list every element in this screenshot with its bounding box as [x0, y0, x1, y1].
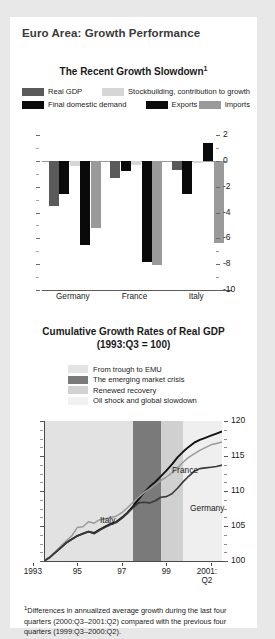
chart1-y-tick	[216, 225, 250, 226]
chart2-y-tick-mark	[224, 482, 227, 483]
chart1-y-tick-mark	[216, 251, 219, 252]
chart1-y-tick: -2	[216, 187, 250, 188]
figure-panel: Euro Area: Growth Performance The Recent…	[10, 17, 257, 628]
chart2-plot-area	[44, 421, 222, 561]
chart2-y-tick-mark-left	[40, 517, 43, 518]
chart2-y-tick-mark-left	[40, 439, 43, 440]
chart2-y-tick-label-105: 105	[231, 520, 245, 530]
chart2-y-tick-mark-left	[40, 482, 43, 483]
chart1-y-tick: -6	[216, 238, 250, 239]
chart1-legend-row-2: Final domestic demand Exports Imports	[22, 98, 250, 111]
chart2-x-tick-label-95: 95	[59, 567, 95, 576]
chart1-y-tick-mark-left	[36, 225, 39, 226]
chart1-y-tick-mark	[216, 264, 220, 265]
legend-item-stockbuilding: Stockbuilding, contribution to growth	[102, 87, 250, 96]
chart2-y-tick-mark	[224, 439, 227, 440]
chart1-x-label-italy: Italy	[165, 292, 227, 301]
chart2-x-tick-mark	[33, 563, 34, 566]
chart2-y-tick-mark-left	[40, 500, 43, 501]
legend-label-renewed-recovery: Renewed recovery	[93, 386, 156, 395]
chart2-y-tick-mark-left	[40, 561, 44, 562]
chart2-x-axis-line	[44, 561, 228, 562]
legend-item-imports: Imports	[199, 100, 250, 109]
chart2-y-tick-mark	[224, 430, 227, 431]
chart2-y-tick-mark	[224, 447, 227, 448]
chart2-y-tick-mark-left	[40, 465, 43, 466]
chart2-y-tick-mark	[224, 535, 227, 536]
chart1-y-tick-label-neg2: -2	[223, 181, 231, 191]
chart2-x-tick-mark	[122, 563, 123, 566]
legend-label-stockbuilding: Stockbuilding, contribution to growth	[128, 87, 250, 96]
page-title: Euro Area: Growth Performance	[22, 27, 200, 39]
legend-swatch-imports	[199, 101, 221, 109]
chart2-x-tick-label-97: 97	[104, 567, 140, 576]
chart2-y-tick-mark	[224, 552, 227, 553]
chart1-legend-row-1: Real GDP Stockbuilding, contribution to …	[22, 85, 250, 98]
chart1-y-tick-mark-left	[36, 187, 40, 188]
chart2-series-label-italy: Italy	[100, 515, 115, 525]
bar-france-stockbuilding-contribution-to-growth	[131, 161, 141, 165]
line-series-france	[44, 432, 222, 562]
chart2-x-tick-mark	[77, 563, 78, 566]
chart1-y-tick-mark	[216, 290, 220, 291]
legend-swatch-exports	[146, 101, 168, 109]
legend-label-final-domestic-demand: Final domestic demand	[48, 100, 127, 109]
chart2-y-tick-mark	[224, 500, 227, 501]
chart1-y-tick-mark	[216, 277, 219, 278]
footnote-text: Differences in annualized average growth…	[24, 606, 226, 635]
legend-swatch-final-domestic-demand	[22, 101, 44, 109]
chart1-y-tick: -10	[216, 290, 250, 291]
chart1-y-tick-mark-left	[36, 213, 40, 214]
chart2-y-tick-mark	[224, 474, 227, 475]
bar-france-exports	[142, 161, 152, 262]
chart2-y-tick-mark	[224, 465, 227, 466]
chart2-x-tick-mark	[166, 563, 167, 566]
legend-item-final-domestic-demand: Final domestic demand	[22, 100, 146, 109]
legend-label-emerging-market-crisis: The emerging market crisis	[93, 375, 185, 384]
chart1-y-tick-label-0: 0	[223, 155, 228, 165]
chart1-y-tick-mark	[216, 161, 220, 162]
chart1-y-tick-mark-left	[36, 264, 40, 265]
chart2-y-tick-mark	[224, 517, 227, 518]
chart1-x-axis	[42, 290, 232, 291]
legend-item-renewed-recovery: Renewed recovery	[68, 385, 197, 396]
chart1-y-tick-label-neg4: -4	[223, 207, 231, 217]
chart1-y-tick-mark	[216, 174, 219, 175]
chart1-plot-area	[42, 135, 227, 290]
chart2-y-tick-mark	[224, 561, 228, 562]
chart2-y-tick-mark-left	[40, 552, 43, 553]
legend-swatch-trough-to-emu	[68, 365, 88, 373]
chart2-y-tick-mark	[224, 456, 228, 457]
chart2-y-tick-mark-left	[40, 526, 44, 527]
chart1-y-tick-mark	[216, 200, 219, 201]
chart2-x-tick-label-2001:: 2001:Q2	[189, 567, 225, 585]
chart2-y-tick-mark	[224, 544, 227, 545]
line-series-germany	[44, 465, 222, 561]
legend-label-imports: Imports	[225, 100, 250, 109]
chart2-y-tick-label-110: 110	[231, 485, 245, 495]
legend-label-exports: Exports	[172, 100, 198, 109]
chart1-title: The Recent Growth Slowdown1	[10, 65, 257, 77]
chart1-y-tick-label-neg6: -6	[223, 232, 231, 242]
chart2-title-line2: (1993:Q3 = 100)	[10, 338, 257, 351]
chart2-y-tick-mark-left	[40, 421, 44, 422]
chart1-y-tick-mark-left	[36, 251, 39, 252]
bar-germany-real-gdp	[49, 161, 59, 206]
chart2-y-tick-mark	[224, 491, 228, 492]
legend-item-real-gdp: Real GDP	[22, 87, 102, 96]
chart1-y-tick-mark-left	[36, 174, 39, 175]
chart1-y-tick-mark	[216, 213, 220, 214]
legend-label-oil-shock: Oil shock and global slowdown	[93, 396, 197, 405]
chart2-y-axis-line	[44, 421, 45, 561]
bar-germany-exports	[80, 161, 90, 245]
chart1-x-label-germany: Germany	[42, 292, 104, 301]
legend-swatch-oil-shock	[68, 397, 88, 405]
chart2-x-tick-mark	[211, 563, 212, 566]
chart1-y-tick: -4	[216, 213, 250, 214]
chart1-y-tick: 0	[216, 161, 250, 162]
chart1-y-tick-mark	[216, 238, 220, 239]
bar-france-final-domestic-demand	[121, 161, 131, 171]
legend-label-trough-to-emu: From trough to EMU	[93, 365, 162, 374]
bar-france-imports	[152, 161, 162, 266]
chart2-y-tick-mark-left	[40, 535, 43, 536]
